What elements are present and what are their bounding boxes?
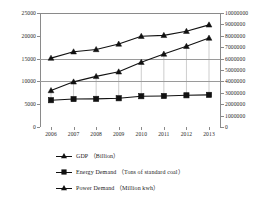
left-axis-tick-label: 5000 (2, 101, 36, 107)
x-axis-tick (51, 127, 52, 130)
right-axis-tick (220, 24, 224, 25)
series-layer (40, 13, 220, 127)
left-axis-tick-label: 0 (2, 124, 36, 130)
right-axis-tick-label: 5000000 (225, 67, 245, 73)
x-axis-tick-label: 2013 (198, 131, 220, 138)
left-axis-tick-label: 15000 (2, 56, 36, 62)
left-axis-tick-label: 10000 (2, 78, 36, 84)
legend-square-icon (56, 168, 72, 177)
right-axis-tick-label: 0 (225, 124, 228, 130)
x-axis-tick (164, 127, 165, 130)
plot-area (40, 13, 220, 127)
right-axis-tick-label: 3000000 (225, 90, 245, 96)
right-axis-tick-label: 7000000 (225, 44, 245, 50)
chart-container: 0500010000150002000025000 01000000200000… (0, 0, 266, 202)
x-axis-tick (96, 127, 97, 130)
legend-item-label: Power Demand （Million kwh） (76, 184, 159, 192)
right-axis-tick-label: 8000000 (225, 33, 245, 39)
right-axis-tick-label: 10000000 (225, 10, 248, 16)
x-axis-tick-label: 2006 (40, 131, 62, 138)
chart-legend: GDP （Billion）Energy Demand （Tons of stan… (56, 148, 264, 196)
right-axis-tick-label: 6000000 (225, 56, 245, 62)
left-axis-tick-label: 20000 (2, 33, 36, 39)
x-axis-labels: 20062007200820092010201120122013 (40, 131, 221, 140)
right-axis-tick (220, 13, 224, 14)
series-power-demand (48, 22, 212, 60)
series-gdp (48, 35, 212, 93)
legend-triangle-icon (56, 184, 72, 193)
x-axis-tick (186, 127, 187, 130)
series-energy-demand (48, 92, 211, 103)
x-axis-tick-label: 2007 (63, 131, 85, 138)
right-axis-tick-label: 9000000 (225, 21, 245, 27)
right-axis-tick (220, 104, 224, 105)
right-axis-tick-label: 4000000 (225, 78, 245, 84)
right-axis-tick (220, 47, 224, 48)
legend-item-label: Energy Demand （Tons of standard coal） (76, 168, 184, 176)
right-axis-tick (220, 81, 224, 82)
right-axis-tick (220, 116, 224, 117)
right-axis-labels: 0100000020000003000000400000050000006000… (225, 0, 265, 127)
right-axis-tick (220, 93, 224, 94)
legend-item-label: GDP （Billion） (76, 152, 119, 160)
right-axis-tick (220, 127, 224, 128)
x-axis-tick-label: 2010 (130, 131, 152, 138)
legend-item[interactable]: GDP （Billion） (56, 148, 264, 164)
x-axis-tick (74, 127, 75, 130)
x-axis-tick-label: 2008 (85, 131, 107, 138)
right-axis-tick (220, 36, 224, 37)
legend-triangle-icon (56, 152, 72, 161)
right-axis-tick (220, 59, 224, 60)
x-axis-tick-label: 2012 (175, 131, 197, 138)
right-axis-tick-label: 2000000 (225, 101, 245, 107)
right-axis-tick (220, 70, 224, 71)
left-axis-labels: 0500010000150002000025000 (0, 0, 36, 127)
x-axis-tick-label: 2009 (108, 131, 130, 138)
left-axis-tick-label: 25000 (2, 10, 36, 16)
x-axis-tick (119, 127, 120, 130)
legend-item[interactable]: Energy Demand （Tons of standard coal） (56, 164, 264, 180)
x-axis-tick (209, 127, 210, 130)
x-axis-tick-label: 2011 (153, 131, 175, 138)
left-axis-tick (37, 127, 40, 128)
x-axis-tick (141, 127, 142, 130)
right-axis-tick-label: 1000000 (225, 113, 245, 119)
legend-item[interactable]: Power Demand （Million kwh） (56, 180, 264, 196)
